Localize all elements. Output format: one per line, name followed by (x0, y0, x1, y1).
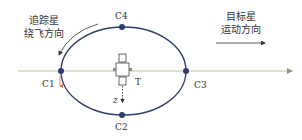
target-direction-label: 目标星 运动方向 (216, 10, 266, 36)
target-satellite-icon (113, 54, 132, 85)
label-c2: C2 (115, 122, 128, 133)
target-direction-line2: 运动方向 (216, 23, 266, 36)
point-c4 (119, 24, 125, 30)
chaser-direction-line2: 绕飞方向 (22, 27, 66, 40)
label-target-t: T (135, 77, 141, 88)
point-c2 (119, 112, 125, 118)
chaser-direction-line1: 追踪星 (22, 14, 66, 27)
label-c1: C1 (42, 79, 55, 90)
label-c4: C4 (115, 11, 128, 22)
point-c3 (183, 68, 189, 74)
label-c3: C3 (194, 80, 207, 91)
relative-orbit-diagram: 追踪星 绕飞方向 目标星 运动方向 C4 C1 C3 C2 T z (0, 0, 302, 140)
chaser-direction-label: 追踪星 绕飞方向 (22, 14, 66, 40)
target-direction-line1: 目标星 (216, 10, 266, 23)
point-c1 (58, 68, 64, 74)
label-z-axis: z (113, 95, 118, 106)
